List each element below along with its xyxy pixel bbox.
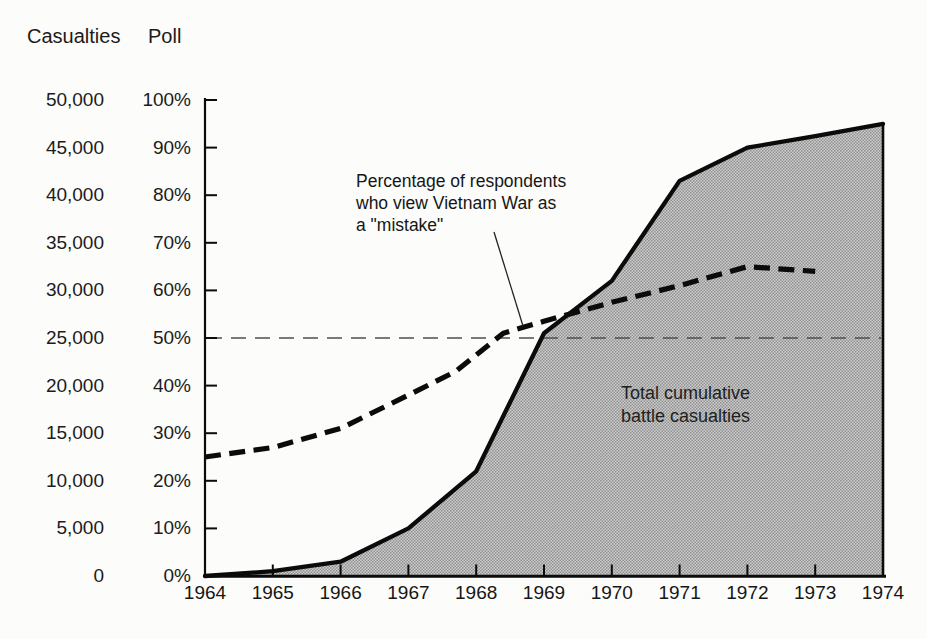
poll-tick-label: 100% xyxy=(109,89,191,111)
year-label: 1964 xyxy=(171,582,239,604)
callout-pointer-line xyxy=(494,232,523,326)
poll-tick-label: 30% xyxy=(109,422,191,444)
casualties-tick-label: 0 xyxy=(6,565,104,587)
area-label-line: Total cumulative xyxy=(621,382,841,405)
year-label: 1972 xyxy=(713,582,781,604)
poll-tick-label: 60% xyxy=(109,279,191,301)
area-label-line: battle casualties xyxy=(621,405,841,428)
callout-line: who view Vietnam War as xyxy=(356,192,626,214)
year-label: 1971 xyxy=(646,582,714,604)
poll-tick-label: 40% xyxy=(109,375,191,397)
callout-line: Percentage of respondents xyxy=(356,170,626,192)
casualties-tick-label: 25,000 xyxy=(6,327,104,349)
casualties-tick-label: 35,000 xyxy=(6,232,104,254)
casualties-tick-label: 10,000 xyxy=(6,470,104,492)
poll-line-callout: Percentage of respondents who view Vietn… xyxy=(356,170,626,236)
year-label: 1967 xyxy=(374,582,442,604)
casualties-tick-label: 40,000 xyxy=(6,184,104,206)
casualties-tick-label: 20,000 xyxy=(6,375,104,397)
poll-tick-label: 50% xyxy=(109,327,191,349)
casualties-poll-chart-figure: Casualties Poll 50,000100%45,00090%40,00… xyxy=(0,0,927,639)
year-label: 1974 xyxy=(849,582,917,604)
casualties-tick-label: 30,000 xyxy=(6,279,104,301)
poll-tick-label: 10% xyxy=(109,517,191,539)
year-label: 1966 xyxy=(307,582,375,604)
casualties-tick-label: 5,000 xyxy=(6,517,104,539)
left-axis-title: Casualties xyxy=(27,25,120,48)
year-label: 1968 xyxy=(442,582,510,604)
poll-tick-label: 90% xyxy=(109,137,191,159)
callout-line: a "mistake" xyxy=(356,214,626,236)
year-label: 1970 xyxy=(578,582,646,604)
poll-tick-label: 70% xyxy=(109,232,191,254)
casualties-tick-label: 50,000 xyxy=(6,89,104,111)
right-axis-title: Poll xyxy=(148,25,181,48)
year-label: 1969 xyxy=(510,582,578,604)
year-label: 1973 xyxy=(781,582,849,604)
poll-tick-label: 80% xyxy=(109,184,191,206)
poll-tick-label: 20% xyxy=(109,470,191,492)
year-label: 1965 xyxy=(239,582,307,604)
casualties-tick-label: 15,000 xyxy=(6,422,104,444)
casualties-tick-label: 45,000 xyxy=(6,137,104,159)
casualties-area-label: Total cumulative battle casualties xyxy=(621,382,841,428)
